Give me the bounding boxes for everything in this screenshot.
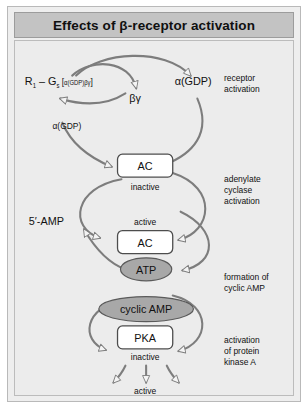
pathway-diagram: R1 – Gs [α(GDP)βγ] βγ α(GDP) α(GDP) AC i…	[15, 41, 293, 395]
node-ac-active: AC	[118, 231, 173, 254]
node-layer: R1 – Gs [α(GDP)βγ] βγ α(GDP) α(GDP) AC i…	[25, 75, 212, 395]
arrow-atp-to-camp	[181, 212, 209, 271]
figure-page: Effects of β-receptor activation	[0, 0, 308, 410]
node-cyclic-amp-label: cyclic AMP	[120, 303, 172, 315]
node-receptor-complex: R1 – Gs [α(GDP)βγ]	[25, 75, 93, 89]
node-atp: ATP	[120, 258, 171, 281]
state-ac-inactive: inactive	[131, 181, 160, 191]
state-pka-inactive: inactive	[131, 352, 160, 362]
arrow-pka-to-effects-left	[114, 366, 126, 383]
node-betagamma: βγ	[129, 91, 141, 103]
node-alpha-gdp-right: α(GDP)	[175, 75, 212, 87]
state-ac-active: active	[134, 217, 156, 227]
diagram-canvas: R1 – Gs [α(GDP)βγ] βγ α(GDP) α(GDP) AC i…	[14, 40, 294, 396]
node-ac-inactive-label: AC	[138, 160, 153, 172]
annotation-formation-of-cyclic-amp: formation of cyclic AMP	[224, 272, 271, 293]
annotation-receptor-activation: receptor activation	[224, 73, 260, 94]
arrow-ac-inactive-to-active	[80, 179, 121, 238]
node-cyclic-amp: cyclic AMP	[99, 297, 194, 322]
node-pka-inactive: PKA	[118, 326, 173, 349]
arrow-pka-to-effects-right	[167, 366, 179, 383]
arrow-ac-active-loop	[173, 173, 206, 240]
node-ac-active-label: AC	[138, 237, 153, 249]
figure-title-bar: Effects of β-receptor activation	[14, 12, 294, 38]
node-pka-inactive-label: PKA	[134, 332, 156, 344]
page-title: Effects of β-receptor activation	[53, 18, 255, 33]
node-ac-inactive: AC	[118, 154, 173, 177]
node-atp-label: ATP	[136, 263, 156, 275]
annotation-activation-of-pka: activation of protein kinase A	[224, 334, 262, 366]
annotation-layer: receptor activation adenylate cyclase ac…	[224, 73, 271, 367]
annotation-adenylate-cyclase-activation: adenylate cyclase activation	[224, 174, 263, 206]
arrow-betagamma-recycle	[60, 93, 125, 103]
state-pka-active: active	[134, 386, 156, 395]
node-5-amp: 5′-AMP	[29, 215, 64, 227]
figure-panel: Effects of β-receptor activation	[7, 6, 301, 402]
node-alpha-gdp-left: α(GDP)	[52, 121, 81, 131]
